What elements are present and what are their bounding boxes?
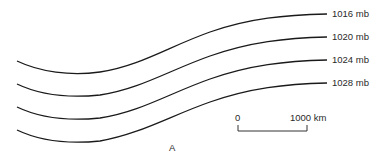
scale-start-label: 0: [235, 113, 240, 123]
scale-end-label: 1000 km: [290, 113, 326, 123]
isobar-label-1020: 1020 mb: [332, 32, 369, 42]
isobar-label-1024: 1024 mb: [332, 55, 369, 65]
isobar-1016: [17, 14, 327, 74]
isobar-1028: [17, 83, 327, 142]
isobar-label-1016: 1016 mb: [332, 9, 369, 19]
isobar-label-1028: 1028 mb: [332, 78, 369, 88]
point-label-a: A: [169, 143, 175, 153]
isobar-1024: [17, 60, 327, 119]
isobar-1020: [17, 37, 327, 96]
scale-bar: [238, 125, 307, 131]
